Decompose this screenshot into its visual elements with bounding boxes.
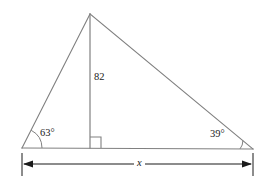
right-angle-marker <box>90 137 101 148</box>
angle-label-right: 39° <box>210 129 225 140</box>
angle-label-left: 63° <box>40 128 55 139</box>
angle-arc-right <box>240 141 243 149</box>
triangle-base-side <box>22 148 253 149</box>
triangle-right-side <box>90 14 253 149</box>
height-label: 82 <box>94 72 105 83</box>
triangle-left-side <box>22 14 90 148</box>
geometry-figure: 63° 39° 82 x <box>0 0 275 187</box>
dimension-arrowhead-right <box>242 161 252 168</box>
base-length-label: x <box>134 158 145 169</box>
dimension-arrowhead-left <box>23 161 33 168</box>
